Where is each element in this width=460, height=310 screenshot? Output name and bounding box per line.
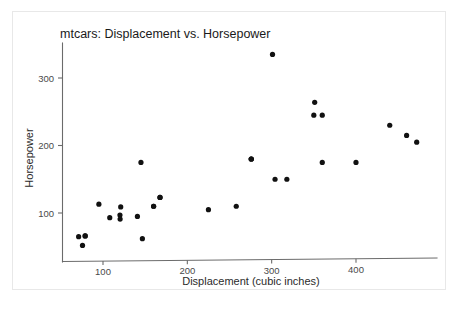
x-axis-title: Displacement (cubic inches) xyxy=(182,275,320,287)
chart-title: mtcars: Displacement vs. Horsepower xyxy=(60,27,270,41)
y-axis-title: Horsepower xyxy=(23,128,35,188)
data-point xyxy=(151,204,156,209)
data-point xyxy=(80,243,85,248)
data-point xyxy=(118,216,123,221)
data-point xyxy=(270,52,275,57)
y-tick-label: 300 xyxy=(38,73,54,84)
data-point xyxy=(118,204,123,209)
data-point xyxy=(76,234,81,239)
screenshot-root: mtcars: Displacement vs. Horsepower Hors… xyxy=(0,0,460,310)
x-tick-label: 400 xyxy=(348,264,364,275)
data-point xyxy=(404,133,409,138)
data-point xyxy=(320,160,325,165)
y-tick-label: 200 xyxy=(38,140,54,151)
data-point xyxy=(135,214,140,219)
data-points-group xyxy=(76,52,419,248)
data-point xyxy=(311,113,316,118)
data-point xyxy=(234,204,239,209)
data-point xyxy=(96,202,101,207)
data-point xyxy=(140,236,145,241)
data-point xyxy=(312,100,317,105)
y-tick-label: 100 xyxy=(38,208,54,219)
data-point xyxy=(138,160,143,165)
data-point xyxy=(272,177,277,182)
data-point xyxy=(387,123,392,128)
data-point xyxy=(249,156,254,161)
x-axis-line xyxy=(63,258,438,262)
data-point xyxy=(353,160,358,165)
y-axis-ticks: 100200300 xyxy=(38,73,63,219)
x-tick-label: 100 xyxy=(95,266,111,277)
data-point xyxy=(206,207,211,212)
scatter-chart: mtcars: Displacement vs. Horsepower Hors… xyxy=(0,0,460,310)
data-point xyxy=(320,113,325,118)
x-tick-label: 300 xyxy=(264,265,280,276)
x-tick-label: 200 xyxy=(179,265,195,276)
data-point xyxy=(157,195,162,200)
data-point xyxy=(83,233,88,238)
data-point xyxy=(414,140,419,145)
data-point xyxy=(284,177,289,182)
data-point xyxy=(107,215,112,220)
